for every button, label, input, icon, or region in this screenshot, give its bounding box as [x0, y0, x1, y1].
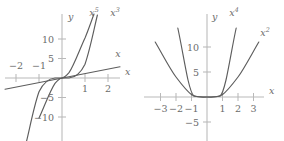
x-tick-label-1-odd: 1 [82, 83, 88, 94]
x-tick-label-minus1-odd: −1 [32, 60, 46, 71]
y-tick-label-10-odd: 10 [42, 34, 54, 45]
y-axis-label-even: y [211, 11, 218, 22]
x-tick-label-minus2-odd: −2 [9, 60, 23, 71]
curve-label-x-cubed: x3 [110, 6, 119, 18]
x-axis-label-odd: x [125, 66, 131, 77]
two-panel-power-function-figure: −2 −1 1 2 10 5 −5 −10 y x x x3 x5 [0, 0, 284, 141]
curve-label-x-fourth: x4 [229, 6, 238, 18]
plot-odd-powers: −2 −1 1 2 10 5 −5 −10 y x x x3 x5 [0, 0, 142, 141]
y-tick-label-10-even: 10 [187, 42, 199, 53]
y-tick-label-minus10-odd: −10 [34, 112, 54, 123]
y-tick-label-minus5-odd: −5 [40, 92, 54, 103]
y-tick-label-minus5-even: −5 [185, 117, 199, 128]
y-axis-label-odd: y [67, 11, 74, 22]
even-powers-svg: −3 −2 −1 1 2 3 10 5 −5 y x x2 x4 [142, 0, 284, 141]
x-tick-label-minus3-even: −3 [153, 103, 167, 114]
y-tick-label-5-even: 5 [193, 67, 199, 78]
curve-label-x-squared: x2 [260, 26, 269, 38]
x-tick-label-1-even: 1 [219, 103, 225, 114]
curve-label-x: x [115, 48, 121, 59]
x-tick-label-2-odd: 2 [105, 83, 111, 94]
odd-powers-svg: −2 −1 1 2 10 5 −5 −10 y x x x3 x5 [0, 0, 142, 141]
x-tick-label-minus1-even: −1 [184, 103, 198, 114]
x-axis-label-even: x [269, 85, 275, 96]
x-tick-label-minus2-even: −2 [169, 103, 183, 114]
y-tick-label-5-odd: 5 [48, 53, 54, 64]
plot-even-powers: −3 −2 −1 1 2 3 10 5 −5 y x x2 x4 [142, 0, 284, 141]
x-tick-label-3-even: 3 [250, 103, 256, 114]
x-tick-label-2-even: 2 [235, 103, 241, 114]
